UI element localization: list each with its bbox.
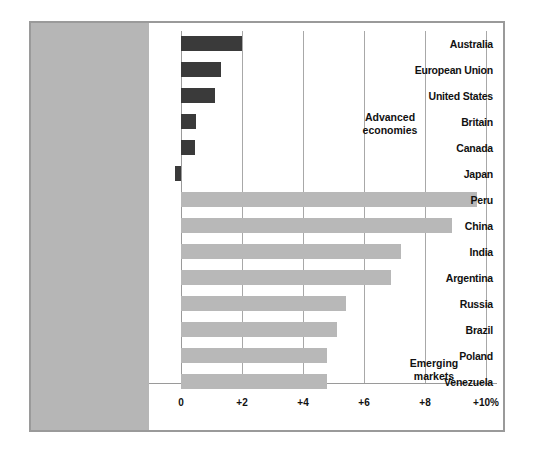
category-label-canada: Canada xyxy=(456,135,493,161)
category-label-brazil: Brazil xyxy=(466,317,493,343)
annotation-advanced-economies: Advanced economies xyxy=(345,111,435,137)
bar-china xyxy=(181,218,452,233)
x-tick-label: +4 xyxy=(297,397,308,408)
gridline-+8 xyxy=(425,31,426,384)
x-tick-label: +2 xyxy=(236,397,247,408)
category-label-argentina: Argentina xyxy=(446,265,493,291)
bar-australia xyxy=(181,36,242,51)
bar-russia xyxy=(181,296,346,311)
gridline-+6 xyxy=(364,31,365,384)
category-label-india: India xyxy=(469,239,493,265)
bar-peru xyxy=(181,192,477,207)
bar-european-union xyxy=(181,62,221,77)
x-tick-label: +6 xyxy=(358,397,369,408)
category-label-european-union: European Union xyxy=(415,57,493,83)
bar-united-states xyxy=(181,88,215,103)
x-tick-label: +8 xyxy=(419,397,430,408)
category-label-venezuela: Venezuela xyxy=(444,369,493,395)
x-tick-label: 0 xyxy=(178,397,184,408)
bar-poland xyxy=(181,348,327,363)
category-label-peru: Peru xyxy=(470,187,493,213)
bar-britain xyxy=(181,114,196,129)
category-label-china: China xyxy=(465,213,493,239)
bar-india xyxy=(181,244,401,259)
bar-argentina xyxy=(181,270,391,285)
category-label-japan: Japan xyxy=(464,161,493,187)
category-label-poland: Poland xyxy=(459,343,493,369)
category-label-britain: Britain xyxy=(461,109,493,135)
category-label-russia: Russia xyxy=(460,291,493,317)
x-tick-label: +10% xyxy=(473,397,499,408)
bar-brazil xyxy=(181,322,337,337)
category-label-gutter xyxy=(31,23,149,430)
chart-figure-frame: 0+2+4+6+8+10% Advanced economies Emergin… xyxy=(29,21,505,432)
category-label-australia: Australia xyxy=(450,31,493,57)
bar-japan xyxy=(175,166,181,181)
category-label-united-states: United States xyxy=(429,83,494,109)
bar-canada xyxy=(181,140,195,155)
bar-venezuela xyxy=(181,374,327,389)
